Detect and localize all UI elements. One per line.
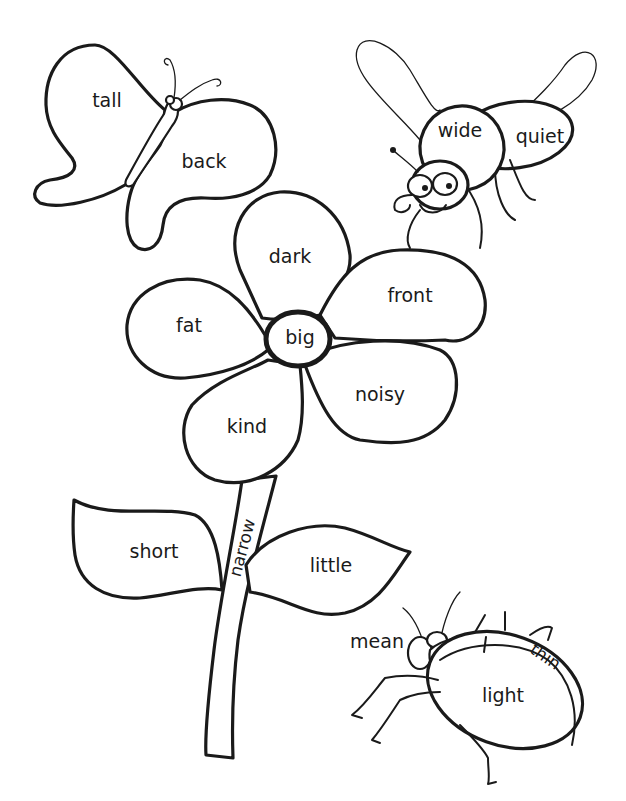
beetle: mean thin light: [350, 592, 599, 784]
flower-petal-bottom-left-label: kind: [227, 415, 267, 437]
flower-petal-right-label: front: [387, 284, 432, 306]
butterfly-upper-wing-label: tall: [92, 89, 122, 111]
flower-petal-left-label: fat: [176, 314, 202, 336]
bee: wide quiet: [356, 41, 596, 248]
beetle-shell-label: light: [482, 684, 524, 706]
flower-petal-top-label: dark: [269, 245, 312, 267]
butterfly-antenna-right: [180, 79, 221, 100]
bee-front-body-label: wide: [438, 119, 483, 141]
beetle-head-label: mean: [350, 630, 404, 652]
flower-right-leaf-label: little: [310, 554, 352, 576]
butterfly-antenna-left: [164, 58, 175, 98]
flower-left-leaf-label: short: [130, 540, 179, 562]
bee-back-body-label: quiet: [516, 125, 565, 147]
flower-center-label: big: [285, 326, 314, 348]
coloring-page: tall back wide quiet: [0, 0, 626, 801]
flower: big dark front fat noisy kind short litt…: [73, 192, 485, 758]
flower-petal-bottom-right-label: noisy: [355, 383, 405, 405]
butterfly-lower-wing-label: back: [181, 150, 226, 172]
